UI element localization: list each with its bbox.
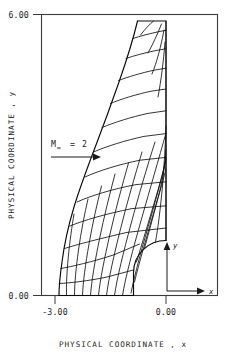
normal-gridline: [156, 126, 167, 242]
inset-y-axis-label: y: [172, 241, 178, 250]
streamwise-gridline: [111, 89, 167, 104]
plot-frame: [42, 15, 218, 296]
streamwise-gridline: [59, 270, 133, 284]
streamwise-gridline: [102, 111, 166, 128]
mach-symbol: M: [51, 139, 56, 149]
freestream-flow-arrow-head: [93, 154, 101, 161]
streamwise-gridline: [133, 30, 166, 38]
y-tick-label-bottom: 0.00: [8, 291, 29, 301]
normal-gridlines: [66, 21, 166, 296]
mach-infinity-subscript: ∞: [57, 144, 61, 151]
normal-gridline: [137, 158, 167, 262]
streamwise-gridline: [65, 228, 167, 249]
inset-x-axis-arrow-head: [197, 288, 205, 295]
normal-gridline: [148, 24, 162, 53]
freestream-annotation: M ∞ = 2: [51, 139, 101, 161]
inset-x-axis-label: x: [208, 287, 214, 296]
upper-normal-gridlines: [141, 21, 166, 97]
bow-shock-boundary: [59, 21, 138, 296]
cfd-grid-plot: 6.00 0.00 -3.00 0.00 PHYSICAL COORDINATE…: [0, 0, 233, 360]
streamwise-gridline: [61, 244, 140, 269]
streamwise-gridline: [119, 68, 167, 80]
figure-container: 6.00 0.00 -3.00 0.00 PHYSICAL COORDINATE…: [0, 0, 233, 360]
computational-grid: [59, 21, 166, 296]
streamwise-gridline: [77, 182, 166, 202]
y-axis-title: PHYSICAL COORDINATE , y: [7, 91, 16, 219]
mach-value: 2: [82, 139, 87, 149]
mach-equals-sign: =: [70, 139, 75, 149]
x-tick-label-right: 0.00: [156, 307, 177, 317]
inset-coordinate-axes: y x: [164, 241, 214, 296]
x-tick-label-left: -3.00: [42, 307, 68, 317]
inset-y-axis-arrow-head: [164, 242, 171, 250]
x-axis-title: PHYSICAL COORDINATE , x: [59, 340, 187, 349]
y-tick-label-top: 6.00: [8, 10, 29, 20]
